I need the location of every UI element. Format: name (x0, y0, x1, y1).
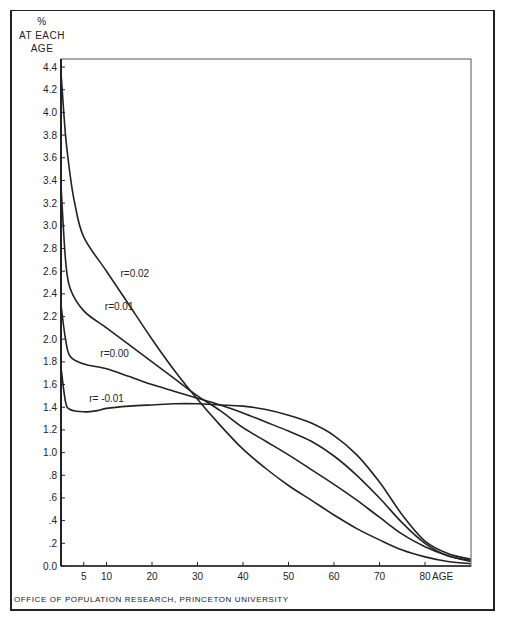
plot-frame (61, 59, 471, 566)
x-tick-label: 80 (419, 571, 431, 582)
y-tick-label: .6 (49, 492, 58, 503)
y-tick-label: 3.6 (43, 152, 57, 163)
x-ticks: 51020304050607080 (81, 562, 431, 582)
y-tick-label: 3.8 (43, 130, 57, 141)
x-tick-label: 30 (192, 571, 204, 582)
y-tick-label: 1.4 (43, 402, 57, 413)
curve-labels: r=0.02r=0.01r=0.00r= -0.01 (89, 268, 149, 404)
y-tick-label: 3.4 (43, 175, 57, 186)
y-tick-label: 4.0 (43, 107, 57, 118)
y-tick-label: 1.6 (43, 379, 57, 390)
y-tick-label: 4.4 (43, 62, 57, 73)
source-credit: OFFICE OF POPULATION RESEARCH, PRINCETON… (14, 595, 289, 604)
curve-label: r= -0.01 (89, 393, 124, 404)
y-tick-label: 2.8 (43, 243, 57, 254)
y-tick-label: 4.2 (43, 84, 57, 95)
curve-label: r=0.00 (100, 348, 129, 359)
x-tick-label: 50 (283, 571, 295, 582)
y-tick-label: 1.2 (43, 424, 57, 435)
x-tick-label: 5 (81, 571, 87, 582)
y-tick-label: .4 (49, 515, 58, 526)
y-tick-label: 2.0 (43, 334, 57, 345)
curves (61, 73, 471, 564)
y-tick-label: 3.2 (43, 198, 57, 209)
chart-plot: 0.0.2.4.6.81.01.21.41.61.82.02.22.42.62.… (0, 0, 505, 620)
y-tick-label: 2.4 (43, 288, 57, 299)
curve-r-0-00 (61, 305, 471, 560)
y-tick-label: 2.6 (43, 266, 57, 277)
y-tick-label: 2.2 (43, 311, 57, 322)
x-tick-label: 10 (101, 571, 113, 582)
curve-label: r=0.02 (121, 268, 150, 279)
x-tick-label: 20 (146, 571, 158, 582)
curve-r-0-02 (61, 73, 471, 564)
x-tick-label: 60 (328, 571, 340, 582)
curve-label: r=0.01 (105, 301, 134, 312)
x-tick-label: 40 (237, 571, 249, 582)
y-tick-label: 0.0 (43, 561, 57, 572)
y-tick-label: .2 (49, 538, 58, 549)
y-tick-label: .8 (49, 470, 58, 481)
y-tick-label: 1.0 (43, 447, 57, 458)
y-tick-label: 3.0 (43, 220, 57, 231)
x-tick-label: 70 (374, 571, 386, 582)
x-axis-label: AGE (432, 571, 453, 582)
y-tick-label: 1.8 (43, 356, 57, 367)
